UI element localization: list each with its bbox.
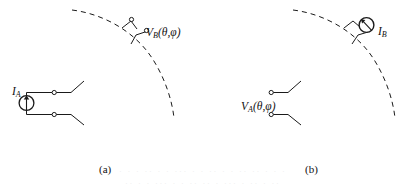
electrode-lead-top-a [56,81,84,93]
figure-root: IA VB(θ,φ) IB VA(θ,φ) (a) (b) · · · ·· ·… [0,0,406,191]
probe-lead-top-b [273,81,301,93]
probe-terminal-top-b [269,90,273,94]
source-lead-upper-b [344,21,360,28]
label-voltage-probe-b: VA(θ,φ) [241,101,276,114]
probe-terminal-upper-a [129,17,133,21]
label-current-source-a: IA [12,86,21,99]
circuit-figure-canvas [0,0,406,191]
label-VB-symbol: V [146,26,153,38]
label-IA-subscript: A [16,90,21,99]
probe-lead-lower-a [131,32,145,44]
electrode-lead-bottom-a [56,115,84,126]
probe-lead-bottom-b [273,115,301,126]
source-terminal-top-a [52,90,56,94]
label-IB-subscript: B [382,30,387,39]
scan-bleedthrough-line-1: · · · ·· · · ··· · · ·· · · ·· ·· · · · [0,168,406,176]
label-VA-args: (θ,φ) [253,100,276,112]
probe-lead-upper-a [122,21,137,29]
source-terminal-bottom-a [52,112,56,116]
panel-b [269,10,395,125]
label-VB-args: (θ,φ) [158,26,181,38]
label-VA-symbol: V [241,100,248,112]
scan-bleedthrough-line-2: ·· · · ··· · · ·· ·· · ··· · ·· · ·· [0,180,406,188]
label-current-source-b: IB [378,26,387,39]
label-voltage-probe-a: VB(θ,φ) [146,27,181,40]
